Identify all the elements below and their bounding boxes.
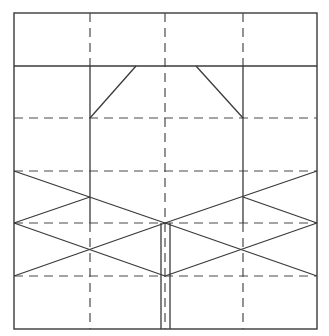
right-top-diagonal-line (196, 66, 243, 118)
fold-pattern-diagram (0, 0, 329, 336)
diagram-canvas (0, 0, 329, 336)
left-x-upper-b-line (14, 197, 90, 223)
left-top-diagonal-line (90, 66, 136, 118)
right-x-upper-b-line (243, 197, 317, 223)
dashed-fold-lines (14, 13, 317, 329)
